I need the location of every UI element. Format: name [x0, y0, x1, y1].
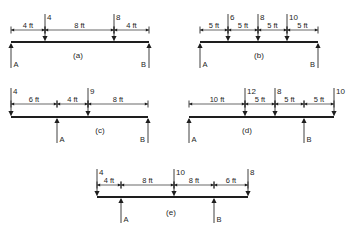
dimension-arrowhead-icon — [200, 28, 203, 31]
beam-diagram-a: 4 ft8 ft4 ft48AB(a) — [8, 13, 151, 69]
load-arrowhead-icon — [8, 111, 13, 116]
load-arrowhead-icon — [94, 191, 99, 196]
dimension-label: 6 ft — [29, 95, 40, 104]
load-value: 8 — [116, 13, 121, 22]
load-arrowhead-icon — [171, 191, 176, 196]
reaction-arrowhead-icon — [211, 198, 216, 203]
dimension-arrowhead-icon — [258, 28, 261, 31]
dimension-arrowhead-icon — [42, 28, 45, 31]
figure-svg: 4 ft8 ft4 ft48AB(a)5 ft5 ft5 ft5 ft6810A… — [0, 0, 349, 245]
support-label: A — [60, 135, 65, 144]
support-label: A — [124, 215, 129, 224]
dimension-label: 5 ft — [314, 95, 325, 104]
point-load: 4 — [42, 13, 52, 41]
support-b: B — [141, 43, 152, 69]
beam-diagram-b: 5 ft5 ft5 ft5 ft6810AB(b) — [197, 13, 320, 69]
load-value: 4 — [13, 87, 18, 96]
dimension-arrowhead-icon — [331, 102, 334, 105]
load-value: 8 — [260, 13, 265, 22]
dimension-arrowhead-icon — [315, 28, 318, 31]
load-value: 4 — [99, 168, 104, 177]
dimension-label: 5 ft — [284, 95, 295, 104]
diagram-caption: (a) — [73, 51, 83, 60]
dimension-arrowhead-icon — [225, 28, 228, 31]
dimension-label: 10 ft — [210, 95, 226, 104]
dimension-arrowhead-icon — [242, 102, 245, 105]
load-arrowhead-icon — [331, 111, 336, 116]
point-load: 8 — [245, 168, 255, 196]
point-load: 9 — [85, 87, 95, 116]
reaction-arrowhead-icon — [8, 43, 13, 48]
support-label: B — [310, 60, 315, 69]
dimension-arrowhead-icon — [54, 102, 57, 105]
load-arrowhead-icon — [225, 36, 230, 41]
dimension-label: 8 ft — [113, 95, 124, 104]
support-b: B — [301, 118, 311, 144]
reaction-arrowhead-icon — [186, 118, 191, 123]
diagram-caption: (b) — [254, 51, 264, 60]
dimension-label: 5 ft — [238, 21, 249, 30]
support-label: A — [192, 135, 197, 144]
dimension-label: 5 ft — [297, 21, 308, 30]
point-load: 10 — [171, 168, 185, 196]
load-arrowhead-icon — [245, 191, 250, 196]
support-label: B — [307, 135, 312, 144]
dimension-arrowhead-icon — [88, 102, 91, 105]
dimension-arrowhead-icon — [245, 102, 248, 105]
dimension-line: 4 ft8 ft4 ft — [11, 21, 149, 34]
beam-diagram-c: 6 ft4 ft8 ft49AB(c) — [8, 87, 150, 144]
load-arrowhead-icon — [284, 36, 289, 41]
load-arrowhead-icon — [272, 111, 277, 116]
dimension-arrowhead-icon — [11, 28, 14, 31]
reaction-arrowhead-icon — [118, 198, 123, 203]
reaction-arrowhead-icon — [54, 118, 59, 123]
beam-diagram-d: 10 ft5 ft5 ft5 ft12810AB(d) — [186, 87, 345, 144]
reaction-arrowhead-icon — [315, 43, 320, 48]
load-arrowhead-icon — [85, 111, 90, 116]
dimension-label: 6 ft — [226, 176, 237, 185]
load-value: 6 — [230, 13, 235, 22]
dimension-arrowhead-icon — [111, 28, 114, 31]
load-value: 8 — [277, 87, 282, 96]
dimension-label: 4 ft — [23, 21, 34, 30]
support-b: B — [211, 198, 221, 224]
load-value: 12 — [247, 87, 256, 96]
dimension-arrowhead-icon — [301, 102, 304, 105]
support-b: B — [140, 118, 151, 144]
reaction-arrowhead-icon — [301, 118, 306, 123]
dimension-arrowhead-icon — [255, 28, 258, 31]
dimension-arrowhead-icon — [304, 102, 307, 105]
diagram-caption: (c) — [95, 126, 105, 135]
load-arrowhead-icon — [242, 111, 247, 116]
dimension-arrowhead-icon — [145, 102, 148, 105]
dimension-label: 8 ft — [74, 21, 85, 30]
support-label: B — [140, 135, 145, 144]
load-value: 4 — [47, 13, 52, 22]
dimension-arrowhead-icon — [171, 183, 174, 186]
point-load: 10 — [331, 87, 345, 116]
reaction-arrowhead-icon — [146, 43, 151, 48]
diagram-caption: (d) — [242, 126, 252, 135]
dimension-arrowhead-icon — [57, 102, 60, 105]
dimension-arrowhead-icon — [189, 102, 192, 105]
reaction-arrowhead-icon — [197, 43, 202, 48]
dimension-label: 4 ft — [67, 95, 78, 104]
dimension-label: 5 ft — [267, 21, 278, 30]
dimension-label: 4 ft — [104, 176, 115, 185]
dimension-label: 8 ft — [142, 176, 153, 185]
load-value: 10 — [336, 87, 345, 96]
dimension-arrowhead-icon — [284, 28, 287, 31]
support-a: A — [8, 43, 18, 69]
support-a: A — [186, 118, 196, 144]
beam-loading-figure: 4 ft8 ft4 ft48AB(a)5 ft5 ft5 ft5 ft6810A… — [0, 0, 349, 245]
dimension-arrowhead-icon — [118, 183, 121, 186]
dimension-line: 6 ft4 ft8 ft — [11, 95, 148, 108]
dimension-label: 4 ft — [126, 21, 137, 30]
dimension-arrowhead-icon — [146, 28, 149, 31]
diagram-caption: (e) — [166, 208, 176, 217]
load-value: 10 — [289, 13, 298, 22]
dimension-arrowhead-icon — [121, 183, 124, 186]
load-arrowhead-icon — [111, 36, 116, 41]
support-label: B — [217, 215, 222, 224]
support-a: A — [54, 118, 64, 144]
